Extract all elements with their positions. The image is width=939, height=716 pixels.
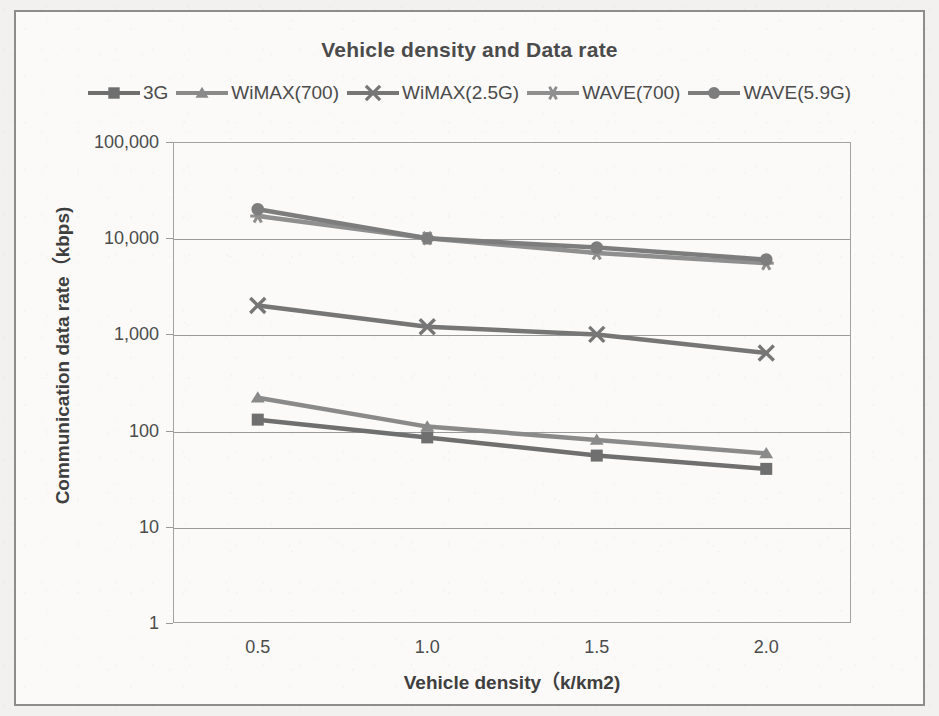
legend-swatch <box>347 82 399 104</box>
y-axis-label: Communication data rate（kbps) <box>47 146 74 566</box>
y-tick-mark <box>166 334 173 335</box>
chart-legend: 3GWiMAX(700)WiMAX(2.5G)WAVE(700)WAVE(5.9… <box>16 82 923 104</box>
series-wave-5-9g <box>251 203 772 266</box>
legend-label: WAVE(700) <box>582 82 680 104</box>
plot-wrapper: 1101001,00010,000100,0000.51.01.52.0 <box>173 142 851 623</box>
y-tick-label: 10,000 <box>104 228 159 249</box>
data-point-marker <box>760 253 773 266</box>
y-tick-mark <box>166 142 173 143</box>
data-point-marker <box>590 241 603 254</box>
legend-marker-circle-icon <box>701 80 727 106</box>
legend-label: WiMAX(2.5G) <box>402 82 519 104</box>
x-tick-label: 1.5 <box>584 637 609 658</box>
series-wave-700 <box>250 210 774 270</box>
series-line <box>258 420 767 469</box>
data-point-marker <box>760 463 772 475</box>
y-tick-mark <box>166 431 173 432</box>
legend-swatch <box>527 82 579 104</box>
chart-title: Vehicle density and Data rate <box>16 38 923 62</box>
legend-marker-triangle-icon <box>189 80 215 106</box>
data-point-marker <box>108 87 119 98</box>
legend-swatch <box>688 82 740 104</box>
legend-marker-square-icon <box>101 80 127 106</box>
legend-label: 3G <box>143 82 168 104</box>
y-tick-label: 1,000 <box>114 324 159 345</box>
series-wimax-2-5g <box>250 298 774 361</box>
data-point-marker <box>421 431 433 443</box>
y-tick-mark <box>166 238 173 239</box>
legend-swatch <box>176 82 228 104</box>
data-point-marker <box>251 203 264 216</box>
y-tick-mark <box>166 623 173 624</box>
chart-figure: Vehicle density and Data rate 3GWiMAX(70… <box>14 10 925 706</box>
legend-marker-x-icon <box>360 80 386 106</box>
x-tick-label: 2.0 <box>754 637 779 658</box>
y-tick-mark <box>166 527 173 528</box>
legend-marker-asterisk-icon <box>540 80 566 106</box>
legend-swatch <box>88 82 140 104</box>
x-tick-label: 1.0 <box>415 637 440 658</box>
legend-item-wimax-700[interactable]: WiMAX(700) <box>176 82 339 104</box>
data-point-marker <box>546 87 560 99</box>
data-point-marker <box>591 450 603 462</box>
y-tick-label: 100 <box>129 420 159 441</box>
legend-label: WAVE(5.9G) <box>743 82 851 104</box>
legend-item-3g[interactable]: 3G <box>88 82 168 104</box>
legend-item-wimax-2-5g[interactable]: WiMAX(2.5G) <box>347 82 519 104</box>
legend-label: WiMAX(700) <box>231 82 339 104</box>
series-line <box>258 209 767 259</box>
legend-item-wave-700[interactable]: WAVE(700) <box>527 82 680 104</box>
series-3g <box>252 414 773 475</box>
series-layer <box>173 142 851 623</box>
y-tick-label: 1 <box>149 613 159 634</box>
data-point-marker <box>252 414 264 426</box>
data-point-marker <box>196 87 209 98</box>
data-point-marker <box>421 232 434 245</box>
y-tick-label: 100,000 <box>94 132 159 153</box>
series-line <box>258 305 767 353</box>
data-point-marker <box>366 86 380 100</box>
x-tick-label: 0.5 <box>245 637 270 658</box>
y-tick-label: 10 <box>139 516 159 537</box>
legend-item-wave-5-9g[interactable]: WAVE(5.9G) <box>688 82 851 104</box>
x-axis-label: Vehicle density（k/km2) <box>173 667 851 694</box>
data-point-marker <box>708 87 720 99</box>
